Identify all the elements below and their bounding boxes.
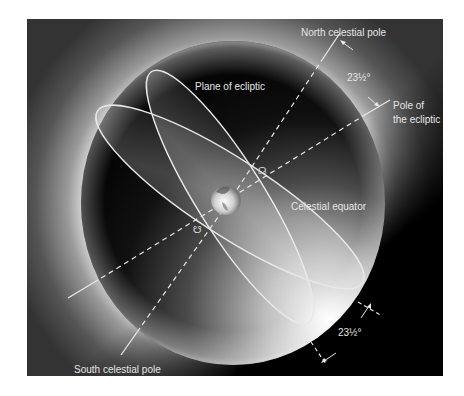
label-angle-top: 23½°	[347, 72, 370, 83]
label-celestial-equator: Celestial equator	[291, 201, 367, 212]
label-plane-of-ecliptic: Plane of ecliptic	[195, 81, 265, 92]
ascending-node-symbol: ☊	[258, 165, 267, 176]
label-pole-of-ecliptic-line1: Pole of	[393, 100, 424, 111]
label-north-celestial-pole: North celestial pole	[301, 27, 386, 38]
frame: ☊ ☋ North celestial pole 23½° Pole of th…	[27, 19, 443, 376]
label-south-celestial-pole: South celestial pole	[74, 364, 161, 375]
descending-node-symbol: ☋	[193, 224, 202, 235]
celestial-sphere-diagram: ☊ ☋ North celestial pole 23½° Pole of th…	[0, 0, 464, 396]
label-pole-of-ecliptic-line2: the ecliptic	[393, 114, 440, 125]
label-angle-bottom: 23½°	[338, 327, 361, 338]
